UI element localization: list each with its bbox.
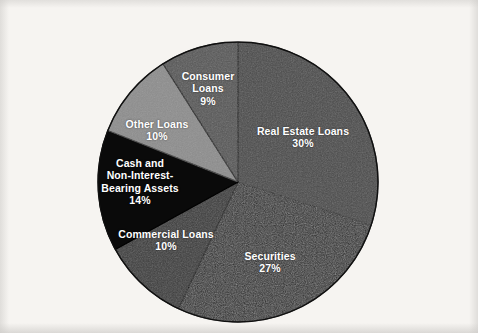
slice-label-real-estate-loans-text: Real Estate Loans xyxy=(257,125,349,137)
slice-label-real-estate-loans-pct: 30% xyxy=(257,137,349,149)
slice-label-cash-line-1: Cash and xyxy=(116,157,164,169)
slice-label-cash-line-2: Non-Interest- xyxy=(101,170,178,182)
slice-label-consumer-pct: 9% xyxy=(182,95,235,107)
slice-label-other-loans-pct: 10% xyxy=(126,130,189,142)
slice-label-consumer-loans: Consumer Loans 9% xyxy=(182,70,235,107)
slice-label-other-loans: Other Loans 10% xyxy=(126,118,189,143)
slice-label-cash-and-non-interest-bearing-assets: Cash and Non-Interest- Bearing Assets 14… xyxy=(101,157,178,207)
slice-label-cash-pct: 14% xyxy=(101,194,178,206)
slice-label-securities-text: Securities xyxy=(244,250,295,262)
pie-chart-canvas xyxy=(0,0,478,333)
slice-label-securities-pct: 27% xyxy=(244,262,295,274)
slice-label-securities: Securities 27% xyxy=(244,250,295,275)
slice-label-commercial-loans: Commercial Loans 10% xyxy=(118,228,214,253)
slice-label-other-loans-text: Other Loans xyxy=(126,118,189,130)
slice-label-consumer-line-1: Consumer xyxy=(182,70,235,82)
slice-label-consumer-line-2: Loans xyxy=(182,83,235,95)
slice-label-real-estate-loans: Real Estate Loans 30% xyxy=(257,125,349,150)
slice-label-commercial-loans-pct: 10% xyxy=(118,240,214,252)
slice-label-commercial-loans-text: Commercial Loans xyxy=(118,228,214,240)
slice-label-cash-line-3: Bearing Assets xyxy=(101,182,178,194)
pie-chart-figure: Real Estate Loans 30% Securities 27% Com… xyxy=(0,0,478,333)
